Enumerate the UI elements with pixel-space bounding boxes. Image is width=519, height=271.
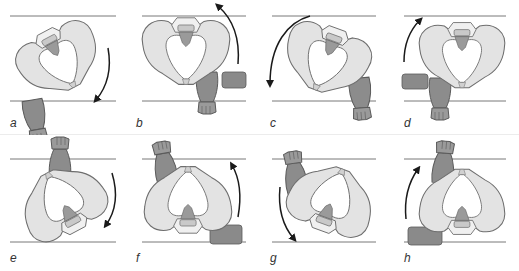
- panel-label: g: [270, 251, 277, 265]
- rotation-arrow-icon: [232, 165, 240, 217]
- panel-f: f: [130, 135, 260, 270]
- rotation-arrow-icon: [406, 169, 419, 219]
- panel-c: c: [260, 0, 390, 135]
- pelvis-rotation-illustration: [130, 135, 260, 271]
- pelvis-rotation-illustration: [0, 0, 130, 135]
- pelvis-rotation-illustration: [260, 135, 390, 271]
- panel-label: b: [136, 116, 143, 130]
- panel-label: c: [270, 116, 276, 130]
- panel-g: g: [260, 135, 390, 270]
- panel-label: h: [404, 251, 411, 265]
- panel-e: e: [0, 135, 130, 270]
- panel-b: b: [130, 0, 260, 135]
- panel-h: h: [390, 135, 519, 270]
- panel-label: d: [404, 116, 411, 130]
- pelvis-rotation-illustration: [260, 0, 390, 135]
- pelvis-rotation-illustration: [0, 135, 130, 271]
- panel-label: e: [10, 251, 17, 265]
- panel-label: a: [10, 116, 17, 130]
- panel-label: f: [136, 251, 139, 265]
- rotation-arrow-icon: [96, 48, 109, 100]
- support-block: [222, 72, 246, 88]
- support-block: [402, 74, 428, 89]
- pelvis-rotation-illustration: [390, 0, 519, 135]
- panel-d: d: [390, 0, 519, 135]
- pelvis-rotation-illustration: [130, 0, 260, 135]
- rotation-arrow-icon: [404, 20, 420, 62]
- panel-a: a: [0, 0, 130, 135]
